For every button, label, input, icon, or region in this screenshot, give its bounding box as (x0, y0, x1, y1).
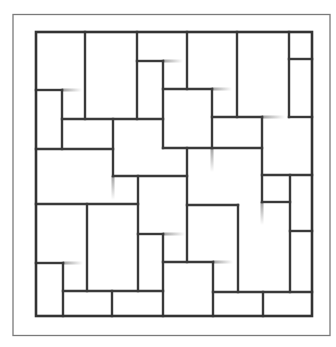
fade-tails (62, 60, 285, 265)
fade-tail (163, 60, 183, 63)
fade-tail (211, 148, 214, 172)
fade-tail (213, 261, 233, 264)
fade-tail (112, 176, 115, 200)
fade-tail (163, 233, 185, 236)
tile-joints (36, 32, 312, 316)
fade-tail (63, 262, 83, 265)
fade-tail (262, 116, 285, 119)
fade-tail (212, 88, 232, 91)
fade-tail (261, 202, 264, 225)
fade-tail (62, 89, 82, 92)
tile-pattern-diagram (0, 0, 336, 347)
